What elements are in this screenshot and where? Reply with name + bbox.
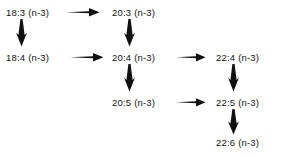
arrow-right-icon-18-3-to-20-3	[66, 6, 100, 19]
node-18-4: 18:4 (n-3)	[6, 52, 49, 63]
arrow-down-icon-20-3-to-20-4	[123, 19, 136, 47]
pathway-diagram: 18:3 (n-3) 20:3 (n-3) 18:4 (n-3) 20:4 (n…	[0, 0, 284, 158]
node-18-3: 18:3 (n-3)	[6, 7, 49, 18]
node-22-4: 22:4 (n-3)	[216, 52, 259, 63]
arrow-down-icon-20-4-to-20-5	[123, 64, 136, 92]
arrow-right-icon-20-4-to-22-4	[176, 51, 206, 64]
arrow-right-icon-20-5-to-22-5	[176, 96, 206, 109]
arrow-down-icon-22-4-to-22-5	[227, 64, 240, 92]
node-22-6: 22:6 (n-3)	[216, 137, 259, 148]
arrow-down-icon-22-5-to-22-6	[227, 109, 240, 135]
arrow-down-icon-18-3-to-18-4	[15, 19, 28, 47]
arrow-right-icon-18-4-to-20-4	[70, 51, 104, 64]
node-22-5: 22:5 (n-3)	[216, 97, 259, 108]
node-20-4: 20:4 (n-3)	[112, 52, 155, 63]
node-20-5: 20:5 (n-3)	[112, 97, 155, 108]
node-20-3: 20:3 (n-3)	[112, 7, 155, 18]
